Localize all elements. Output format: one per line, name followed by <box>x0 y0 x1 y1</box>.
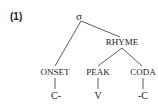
syllable-node: σ <box>76 11 82 22</box>
onset-segment: C- <box>51 91 61 101</box>
branch-sigma-onset <box>55 21 81 66</box>
peak-segment: V <box>94 91 101 101</box>
rhyme-node: RHYME <box>106 38 139 47</box>
peak-node: PEAK <box>86 68 110 77</box>
branch-sigma-rhyme <box>81 21 120 37</box>
onset-node: ONSET <box>41 68 70 77</box>
branch-rhyme-coda <box>122 48 142 66</box>
branch-rhyme-peak <box>98 48 122 66</box>
coda-segment: -C <box>138 91 148 101</box>
coda-node: CODA <box>130 68 156 77</box>
